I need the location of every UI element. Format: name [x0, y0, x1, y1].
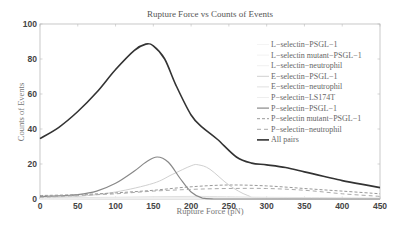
legend-entry: L−selectin mutant−PSGL−1 [271, 51, 362, 60]
legend-entry: E−selectin−PSGL−1 [271, 72, 337, 81]
legend-entry: P−selectin−LS174T [271, 93, 335, 102]
y-tick-label: 100 [23, 19, 37, 29]
x-tick-label: 400 [335, 201, 349, 211]
y-tick-label: 0 [32, 194, 37, 204]
y-tick-label: 20 [28, 159, 38, 169]
legend-entry: E−selectin−neutrophil [271, 82, 343, 91]
x-tick-label: 300 [260, 201, 274, 211]
x-tick-label: 100 [108, 201, 122, 211]
legend-entry: L−selectin−neutrophil [271, 61, 343, 70]
chart-title: Rupture Force vs Counts of Events [147, 9, 274, 19]
y-tick-label: 80 [28, 54, 38, 64]
legend-entry: P−selectin mutant−PSGL−1 [271, 114, 361, 123]
x-tick-label: 0 [38, 201, 43, 211]
y-tick-label: 40 [28, 124, 38, 134]
x-tick-label: 50 [73, 201, 83, 211]
legend-entry: P−selectin−neutrophil [271, 125, 343, 134]
y-axis-label: Counts of Events [16, 83, 26, 142]
chart: Rupture Force vs Counts of Events 050100… [0, 0, 406, 227]
y-tick-label: 60 [28, 89, 38, 99]
legend-entry: All pairs [271, 135, 299, 144]
x-tick-label: 450 [373, 201, 387, 211]
x-tick-label: 150 [146, 201, 160, 211]
legend-entry: P−selectin−PSGL−1 [271, 104, 337, 113]
legend-entry: L−selectin−PSGL−1 [271, 40, 337, 49]
x-axis-label: Rupture Force (pN) [176, 206, 243, 216]
x-tick-label: 350 [297, 201, 311, 211]
